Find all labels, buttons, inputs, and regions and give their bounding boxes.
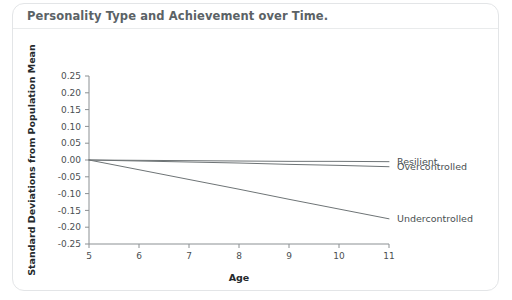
series-labels: ResilientOvercontrolledUndercontrolled — [397, 156, 473, 224]
chart-series — [89, 160, 389, 219]
y-tick-label: 0.20 — [61, 88, 81, 98]
y-tick-label: 0.10 — [61, 122, 81, 132]
card-header: Personality Type and Achievement over Ti… — [13, 4, 498, 29]
x-tick-label: 7 — [186, 251, 192, 261]
y-tick-label: -0.20 — [58, 222, 82, 232]
chart-card: Personality Type and Achievement over Ti… — [12, 3, 499, 291]
x-tick-label: 8 — [236, 251, 242, 261]
series-label-overcontrolled: Overcontrolled — [397, 161, 467, 172]
series-line-undercontrolled — [89, 160, 389, 219]
y-tick-label: -0.10 — [58, 189, 82, 199]
y-tick-label: 0.05 — [61, 138, 81, 148]
x-tick-label: 9 — [286, 251, 292, 261]
series-label-undercontrolled: Undercontrolled — [397, 213, 473, 224]
y-tick-label: -0.05 — [58, 172, 81, 182]
chart-plot-area: 0.250.200.150.100.050.00-0.05-0.10-0.15-… — [13, 29, 498, 291]
y-axis-ticks: 0.250.200.150.100.050.00-0.05-0.10-0.15-… — [58, 71, 89, 249]
x-axis-title: Age — [229, 272, 250, 283]
y-tick-label: 0.25 — [61, 71, 81, 81]
y-tick-label: -0.15 — [58, 206, 81, 216]
y-tick-label: 0.15 — [61, 105, 81, 115]
page-title: Personality Type and Achievement over Ti… — [27, 9, 328, 23]
line-chart: 0.250.200.150.100.050.00-0.05-0.10-0.15-… — [13, 29, 500, 291]
x-tick-label: 6 — [136, 251, 142, 261]
x-tick-label: 10 — [333, 251, 345, 261]
x-axis-ticks: 567891011 — [86, 244, 395, 261]
y-axis-title: Standard Deviations from Population Mean — [26, 44, 37, 276]
y-tick-label: 0.00 — [61, 155, 81, 165]
y-tick-label: -0.25 — [58, 239, 81, 249]
x-tick-label: 5 — [86, 251, 92, 261]
x-tick-label: 11 — [383, 251, 394, 261]
